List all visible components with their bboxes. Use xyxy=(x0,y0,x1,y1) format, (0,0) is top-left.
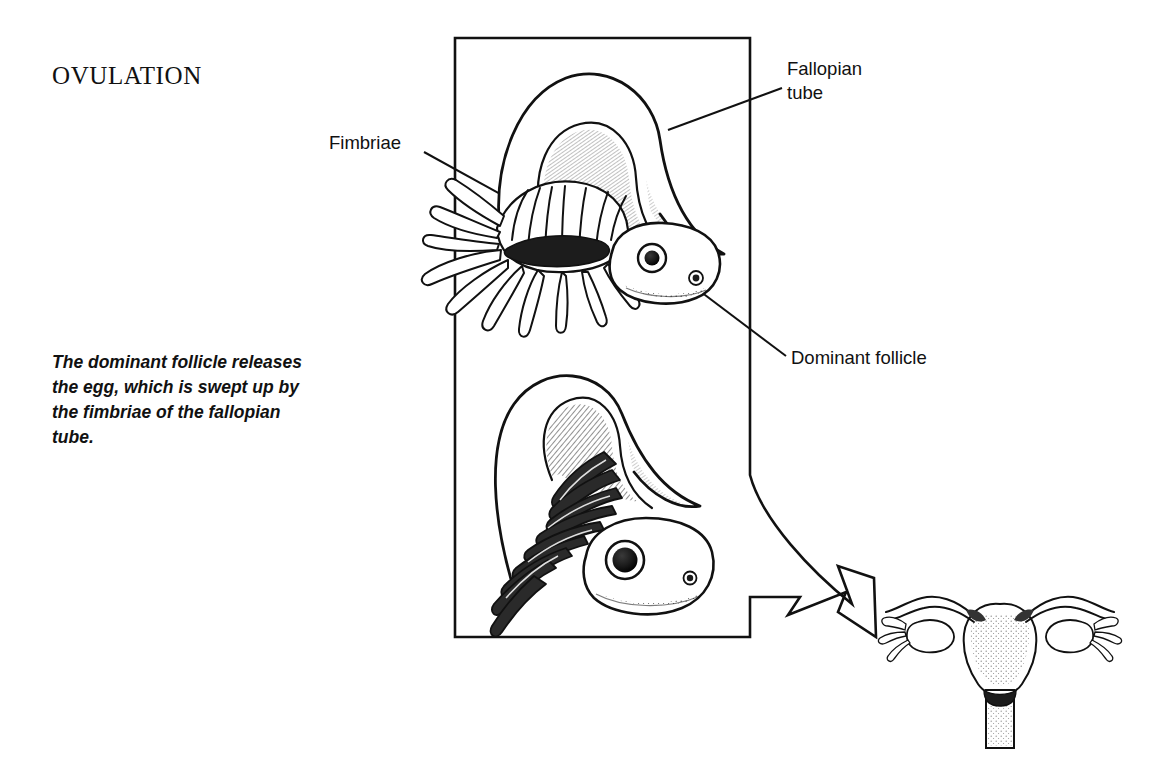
dominant-follicle-core-upper xyxy=(645,251,660,266)
ovulation-figure: OVULATION The dominant follicle releases… xyxy=(0,0,1149,768)
uterus-tube-right xyxy=(1028,597,1114,614)
vaginal-canal-shading xyxy=(988,706,1012,746)
uterus-fimbriae-left xyxy=(878,617,910,661)
uterus-ovary-left xyxy=(907,620,954,652)
uterus-inset xyxy=(878,597,1121,748)
ovary-upper xyxy=(610,223,720,304)
ovary-lower xyxy=(584,518,714,614)
released-egg xyxy=(613,548,638,573)
lower-stage-illustration xyxy=(491,376,714,637)
uterus-tube-left xyxy=(886,597,972,614)
secondary-follicle-core-lower xyxy=(687,575,693,581)
leader-line-fallopian-tube xyxy=(668,88,782,130)
uterus-fimbriae-right xyxy=(1090,617,1122,661)
uterus-ovary-right xyxy=(1046,620,1093,652)
secondary-follicle-core-upper xyxy=(693,275,700,282)
illustration-layer xyxy=(0,0,1149,768)
upper-stage-illustration xyxy=(422,74,724,337)
ovary-body-lower xyxy=(584,518,714,614)
